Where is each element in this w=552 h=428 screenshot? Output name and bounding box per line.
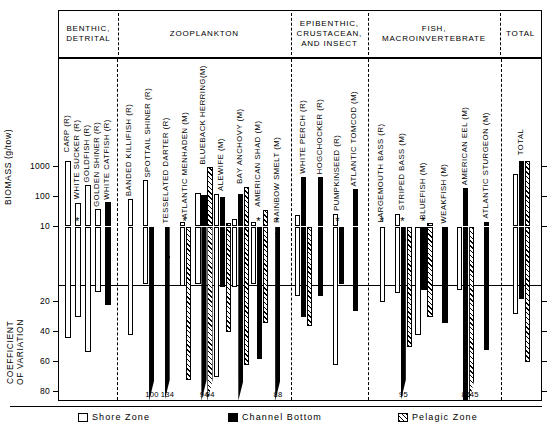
tick-biomass-100 <box>53 196 58 197</box>
group-header-total: TOTAL <box>500 11 541 57</box>
cv-bar-channel <box>201 227 206 401</box>
species-label-white-perch-r: WHITE PERCH (R) <box>299 107 307 174</box>
group-divider-4 <box>501 59 502 400</box>
axis-title-biomass: BIOMASS (g/tow) <box>4 108 16 226</box>
tick-cv-60 <box>53 361 58 362</box>
tick-biomass-1000 <box>53 166 58 167</box>
biomass-bar-shore <box>128 199 133 226</box>
biomass-bar-channel <box>220 197 225 226</box>
biomass-bar-channel <box>105 202 110 226</box>
biomass-bar-channel <box>519 161 524 226</box>
asterisk-marker: * <box>75 217 79 225</box>
biomass-bar-channel <box>201 195 206 226</box>
tick-right-1 <box>542 166 547 167</box>
cv-bar-channel <box>105 227 110 305</box>
cv-bar-shore <box>180 227 185 286</box>
species-label-blueback-herringm: BLUEBACK HERRING(M) <box>199 80 207 165</box>
legend-swatch-shore-zone <box>78 413 88 422</box>
biomass-bar-pelagic <box>207 167 212 226</box>
biomass-bar-pelagic <box>525 161 530 226</box>
cv-bar-shore <box>251 227 256 284</box>
ticklabel-biomass-1000: 1000 <box>18 161 50 171</box>
species-label-golden-shiner-r: GOLDEN SHINER (R) <box>93 131 101 207</box>
cv-bar-channel <box>484 227 489 350</box>
cv-bar-channel <box>301 227 306 317</box>
tick-right-4 <box>542 301 547 302</box>
tick-right-6 <box>542 361 547 362</box>
cv-bar-pelagic <box>263 227 268 323</box>
species-label-total: TOTAL <box>517 133 525 155</box>
cv-bar-pelagic <box>469 227 474 401</box>
legend-item-channel-bottom: Channel Bottom <box>228 412 322 422</box>
legend-separator <box>10 406 542 407</box>
cv-bar-channel <box>165 227 170 401</box>
biomass-bar-pelagic <box>263 210 268 226</box>
asterisk-marker: * <box>463 217 467 225</box>
cv-bar-pelagic <box>525 227 530 362</box>
biomass-bar-shore <box>295 215 300 226</box>
ticklabel-cv-40: 40 <box>18 326 50 336</box>
tick-right-3 <box>542 226 547 227</box>
cv-bar-pelagic <box>407 227 412 347</box>
species-label-striped-bass-m: STRIPED BASS (M) <box>398 139 406 210</box>
species-label-tesselated-darter-r: TESSELATED DARTER (R) <box>162 130 170 223</box>
legend-label-pelagic-zone: Pelagic Zone <box>412 412 478 422</box>
ticklabel-cv-20: 20 <box>18 296 50 306</box>
cv-bar-pelagic <box>307 227 312 326</box>
biomass-bar-channel <box>238 194 243 226</box>
overflow-value-label: 134 <box>161 390 174 399</box>
cv-bar-channel <box>257 227 262 359</box>
species-label-spottail-shiner-r: SPOTTAIL SHINER (R) <box>144 93 152 178</box>
asterisk-marker: * <box>256 217 260 225</box>
species-label-pumpkinseed-r: PUMPKINSEED (R) <box>333 144 341 211</box>
tick-right-5 <box>542 331 547 332</box>
species-label-american-shad-m: AMERICAN SHAD (M) <box>254 131 262 207</box>
cv-bar-shore <box>232 227 237 287</box>
biomass-bar-channel <box>353 189 358 226</box>
species-label-alewife-m: ALEWIFE (M) <box>217 142 225 191</box>
ticklabel-cv-80: 80 <box>18 386 50 396</box>
group-header-benthic-detrital: BENTHIC, DETRITAL <box>59 11 118 57</box>
cv-bar-shore <box>195 227 200 284</box>
group-divider-2 <box>291 59 292 400</box>
tick-biomass-10 <box>53 226 58 227</box>
cv-bar-pelagic <box>226 227 231 332</box>
cv-bar-pelagic <box>186 227 191 380</box>
species-label-hogchocker-r: HOGCHOCKER (R) <box>316 112 324 174</box>
cv-bar-channel <box>421 227 426 290</box>
cv-bar-shore <box>295 227 300 296</box>
biomass-bar-shore <box>65 161 70 226</box>
group-header-epibenthic: EPIBENTHIC, CRUSTACEAN, AND INSECT <box>291 11 368 57</box>
legend-item-shore-zone: Shore Zone <box>78 412 150 422</box>
group-header-band: BENTHIC, DETRITAL ZOOPLANKTON EPIBENTHIC… <box>58 10 542 58</box>
species-label-carp-r: CARP (R) <box>63 117 71 153</box>
cv-bar-pelagic <box>244 227 249 365</box>
legend-label-shore-zone: Shore Zone <box>92 412 150 422</box>
species-label-largemouth-bass-r: LARGEMOUTH BASS (R) <box>377 138 385 223</box>
cv-bar-channel <box>149 227 154 401</box>
figure-root: BIOMASS (g/tow) COEFFICIENT OF VARIATION… <box>0 0 552 428</box>
cv-bar-channel <box>220 227 225 287</box>
asterisk-marker: * <box>335 217 339 225</box>
biomass-bar-shore <box>85 185 90 226</box>
species-label-atlantic-sturgeon-m: ATLANTIC STURGEON (M) <box>482 125 490 218</box>
ticklabel-biomass-100: 100 <box>18 191 50 201</box>
legend-swatch-pelagic-zone <box>398 413 408 422</box>
biomass-bar-shore <box>143 180 148 226</box>
cv-bar-shore <box>65 227 70 338</box>
cv-bar-shore <box>380 227 385 302</box>
biomass-bar-pelagic <box>427 223 432 226</box>
overflow-value-label: 100 <box>145 390 158 399</box>
tick-cv-20 <box>53 301 58 302</box>
cv-bar-shore <box>395 227 400 293</box>
species-label-atlantic-tomcod-m: ATLANTIC TOMCOD (M) <box>350 102 358 187</box>
cv-bar-channel <box>519 227 524 299</box>
species-label-american-eel-m: AMERICAN EEL (M) <box>461 114 469 185</box>
cv-bar-pelagic <box>207 227 212 401</box>
biomass-bar-shore <box>513 174 518 226</box>
group-header-zooplankton: ZOOPLANKTON <box>118 11 291 57</box>
cv-bar-shore <box>75 227 80 317</box>
species-label-goldfish-r: GOLDFISH (R) <box>83 129 91 182</box>
cv-bar-channel <box>401 227 406 401</box>
overflow-value-label: 145 <box>465 390 478 399</box>
